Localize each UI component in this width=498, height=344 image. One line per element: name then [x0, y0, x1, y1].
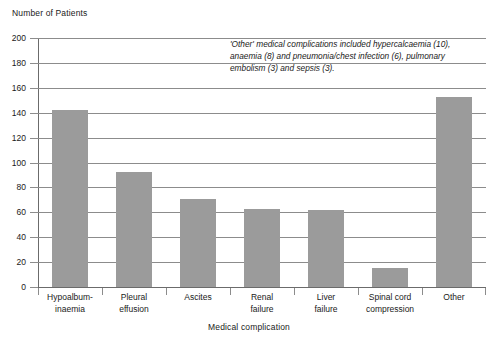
x-axis-category-label-line: effusion [102, 304, 166, 316]
x-axis-category-label-line: Spinal cord [358, 292, 422, 304]
y-axis-tick-mark [30, 262, 38, 263]
bar [372, 268, 408, 287]
x-axis-category-label-line: Renal [230, 292, 294, 304]
y-axis-tick-label: 140 [12, 108, 26, 118]
y-axis-tick-label: 160 [12, 83, 26, 93]
x-axis-category-label-line: Ascites [166, 292, 230, 304]
x-axis-category-label-line: failure [294, 304, 358, 316]
x-axis-category-label-line: Hypoalbum- [38, 292, 102, 304]
y-axis-tick-labels: 020406080100120140160180200 [0, 38, 26, 288]
y-axis-tick-mark [30, 38, 38, 39]
x-axis-category-label-line: Pleural [102, 292, 166, 304]
x-axis-category-label-line: Other [422, 292, 486, 304]
bar-chart-figure: Number of Patients 020406080100120140160… [0, 0, 498, 344]
y-axis-tick-label: 20 [17, 257, 26, 267]
x-axis-category-label-line: inaemia [38, 304, 102, 316]
x-axis-category-label: Liverfailure [294, 292, 358, 315]
y-axis-tick-label: 40 [17, 232, 26, 242]
y-axis-tick-mark [30, 113, 38, 114]
bar [244, 209, 280, 287]
y-axis-tick-mark [30, 287, 38, 288]
x-axis-category-label: Other [422, 292, 486, 304]
y-axis-tick-label: 80 [17, 182, 26, 192]
y-axis-tick-label: 120 [12, 133, 26, 143]
y-axis-tick-label: 200 [12, 33, 26, 43]
bar [180, 199, 216, 287]
y-axis-tick-label: 0 [21, 282, 26, 292]
bar [308, 210, 344, 287]
y-axis-tick-marks [30, 38, 38, 288]
y-axis-tick-mark [30, 237, 38, 238]
x-axis-category-label: Pleuraleffusion [102, 292, 166, 315]
x-axis-category-labels: Hypoalbum-inaemiaPleuraleffusionAscitesR… [38, 292, 486, 322]
y-axis-tick-mark [30, 63, 38, 64]
y-axis-title: Number of Patients [12, 8, 87, 18]
gridline [38, 138, 486, 139]
y-axis-tick-mark [30, 212, 38, 213]
plot-area [38, 38, 486, 287]
annotation-line: embolism (3) and sepsis (3). [230, 62, 488, 74]
gridline [38, 187, 486, 188]
y-axis-tick-label: 180 [12, 58, 26, 68]
x-axis-category-label: Ascites [166, 292, 230, 304]
y-axis-tick-mark [30, 138, 38, 139]
annotation-line: 'Other' medical complications included h… [230, 38, 488, 50]
y-axis-tick-label: 60 [17, 207, 26, 217]
chart-annotation-note: 'Other' medical complications included h… [230, 38, 488, 75]
x-axis-category-label-line: Liver [294, 292, 358, 304]
x-axis-title: Medical complication [0, 322, 498, 332]
x-axis-category-label-line: compression [358, 304, 422, 316]
annotation-line: anaemia (8) and pneumonia/chest infectio… [230, 50, 488, 62]
x-axis-category-label: Spinal cordcompression [358, 292, 422, 315]
y-axis-tick-mark [30, 163, 38, 164]
y-axis-tick-label: 100 [12, 158, 26, 168]
gridline [38, 88, 486, 89]
y-axis-tick-mark [30, 187, 38, 188]
x-axis-category-label-line: failure [230, 304, 294, 316]
gridline [38, 163, 486, 164]
bar [116, 172, 152, 287]
gridline [38, 113, 486, 114]
x-axis-category-label: Hypoalbum-inaemia [38, 292, 102, 315]
bar [52, 110, 88, 287]
y-axis-tick-mark [30, 88, 38, 89]
x-axis-category-label: Renalfailure [230, 292, 294, 315]
bar [436, 97, 472, 287]
